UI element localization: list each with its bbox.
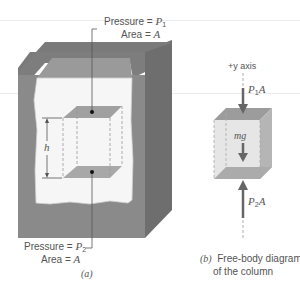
container [18, 40, 172, 238]
height-label: h [44, 141, 50, 153]
p1a-label: P1A [248, 83, 265, 99]
bottom-area-label: Area = A [41, 253, 80, 266]
container-opening [37, 58, 132, 78]
top-area-label: Area = A [121, 28, 160, 41]
bottom-point [90, 170, 94, 174]
container-side-face [145, 40, 172, 238]
caption-a: (a) [81, 268, 93, 280]
p2a-label: P2A [248, 195, 265, 211]
y-axis-label: +y axis [228, 60, 256, 72]
mg-label: mg [234, 130, 246, 142]
caption-b-line1: (b) Free-body diagram [200, 253, 300, 265]
top-point [90, 110, 94, 114]
caption-b-line2: of the column [213, 266, 273, 278]
